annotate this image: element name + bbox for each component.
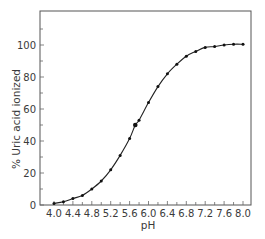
data-point — [213, 45, 216, 48]
data-point — [62, 200, 65, 203]
x-tick-label: 4.4 — [65, 208, 81, 219]
data-point — [109, 168, 112, 171]
data-point — [90, 188, 93, 191]
data-point — [232, 43, 235, 46]
x-tick-label: 6.4 — [159, 208, 175, 219]
x-tick-label: 6.0 — [141, 208, 157, 219]
data-point — [166, 72, 169, 75]
data-point — [194, 50, 197, 53]
data-point — [223, 44, 226, 47]
y-axis-ticks — [40, 29, 44, 205]
x-tick-label: 4.0 — [46, 208, 62, 219]
data-point — [175, 63, 178, 66]
y-tick-label: 80 — [23, 72, 36, 83]
x-tick-label: 5.2 — [103, 208, 119, 219]
y-tick-label: 0 — [30, 200, 36, 211]
chart: 4.04.44.85.25.66.06.46.87.27.68.0 020406… — [0, 0, 265, 239]
x-tick-label: 5.6 — [122, 208, 138, 219]
y-axis-title: % Uric acid ionized — [10, 69, 22, 169]
x-tick-label: 4.8 — [84, 208, 100, 219]
data-point — [242, 43, 245, 46]
data-curve — [54, 44, 243, 203]
data-point — [81, 194, 84, 197]
x-tick-label: 7.6 — [216, 208, 232, 219]
data-point — [119, 154, 122, 157]
data-point — [147, 101, 150, 104]
data-point — [128, 137, 131, 140]
data-point — [204, 46, 207, 49]
y-tick-label: 20 — [23, 168, 36, 179]
data-point — [138, 119, 141, 122]
x-axis-ticks — [54, 201, 243, 205]
y-tick-label: 40 — [23, 136, 36, 147]
data-point — [185, 55, 188, 58]
data-point — [71, 197, 74, 200]
highlight-data-point — [133, 123, 138, 128]
data-point — [156, 85, 159, 88]
data-point — [100, 180, 103, 183]
x-tick-label: 8.0 — [235, 208, 251, 219]
x-axis-title: pH — [141, 219, 156, 231]
x-tick-label: 6.8 — [178, 208, 194, 219]
y-tick-label: 60 — [23, 104, 36, 115]
data-point — [53, 202, 56, 205]
data-points — [53, 43, 245, 205]
x-axis-tick-labels: 4.04.44.85.25.66.06.46.87.27.68.0 — [46, 208, 251, 219]
x-tick-label: 7.2 — [197, 208, 213, 219]
y-tick-label: 100 — [17, 40, 36, 51]
